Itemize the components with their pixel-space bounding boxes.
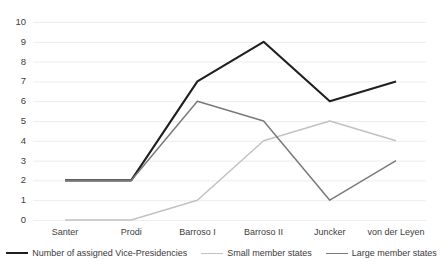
x-axis-tick-label: Barroso I [179, 228, 216, 237]
x-axis-tick-label: von der Leyen [367, 228, 424, 237]
y-axis-tick-label: 3 [4, 156, 26, 166]
legend-item[interactable]: Large member states [326, 249, 437, 258]
y-axis-tick-label: 2 [4, 175, 26, 185]
series-line-1 [65, 121, 396, 220]
y-axis-tick-label: 6 [4, 96, 26, 106]
y-axis-tick-label: 4 [4, 136, 26, 146]
legend-label: Number of assigned Vice-Presidencies [32, 249, 187, 258]
x-axis-tick-label: Barroso II [244, 228, 283, 237]
legend-line-icon [201, 253, 223, 254]
x-axis-tick-label: Prodi [121, 228, 142, 237]
x-axis-tick-label: Santer [52, 228, 79, 237]
y-axis-tick-label: 1 [4, 195, 26, 205]
chart-legend: Number of assigned Vice-PresidenciesSmal… [0, 245, 443, 261]
series-line-2 [65, 101, 396, 200]
y-axis-tick-label: 7 [4, 76, 26, 86]
line-chart: 012345678910 SanterProdiBarroso IBarroso… [0, 0, 443, 274]
y-axis-tick-label: 10 [4, 17, 26, 27]
legend-label: Small member states [227, 249, 312, 258]
legend-line-icon [6, 252, 28, 254]
series-lines [65, 42, 396, 220]
gridlines [33, 23, 426, 221]
y-axis-tick-label: 0 [4, 215, 26, 225]
legend-item[interactable]: Small member states [201, 249, 312, 258]
legend-label: Large member states [352, 249, 437, 258]
y-axis-tick-label: 9 [4, 37, 26, 47]
legend-item[interactable]: Number of assigned Vice-Presidencies [6, 249, 187, 258]
y-axis-tick-label: 8 [4, 57, 26, 67]
legend-line-icon [326, 253, 348, 254]
y-axis-tick-label: 5 [4, 116, 26, 126]
x-axis-tick-label: Juncker [314, 228, 346, 237]
